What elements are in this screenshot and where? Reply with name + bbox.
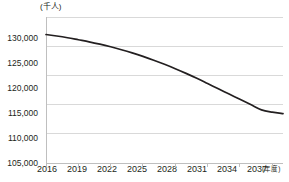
population-projection-chart: (千人) 130,000 125,000 120,000 115,000 110… bbox=[0, 0, 289, 182]
gridlines bbox=[46, 17, 283, 163]
x-axis-tick-marks bbox=[46, 163, 272, 167]
plot-area bbox=[0, 0, 289, 182]
